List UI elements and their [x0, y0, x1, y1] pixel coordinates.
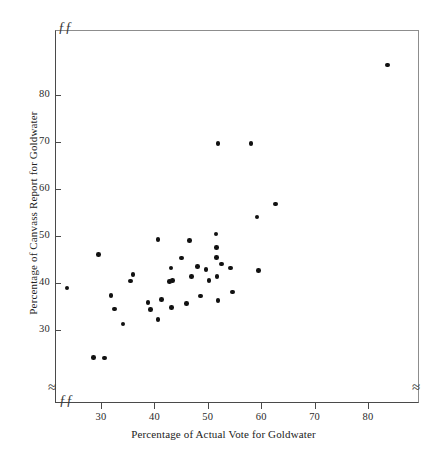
data-point [179, 256, 184, 261]
data-point [385, 63, 390, 68]
y-axis-tick [55, 189, 61, 190]
y-axis-tick [55, 283, 61, 284]
x-axis-tick-label: 30 [81, 411, 121, 422]
y-axis-tick-label: 80 [0, 88, 50, 99]
x-axis-tick [368, 403, 369, 409]
x-axis-tick [261, 403, 262, 409]
data-point [184, 301, 189, 306]
data-point [195, 264, 200, 269]
data-point [219, 262, 224, 267]
data-point [214, 232, 219, 237]
data-point [273, 202, 278, 207]
data-point [169, 266, 174, 271]
y-axis-tick [55, 330, 61, 331]
data-point [256, 268, 261, 273]
x-axis-tick-label: 40 [134, 411, 174, 422]
x-axis-tick [101, 403, 102, 409]
x-axis-tick-label: 60 [241, 411, 281, 422]
axis-break-bottom-left-icon: ƒƒ [59, 394, 73, 408]
data-point [170, 278, 175, 283]
x-axis-tick [208, 403, 209, 409]
data-point [216, 141, 221, 146]
data-point [128, 279, 133, 284]
data-point [249, 141, 254, 146]
y-axis-tick [55, 236, 61, 237]
data-point [255, 215, 260, 220]
data-point [102, 356, 107, 361]
data-point [109, 293, 114, 298]
data-point [65, 286, 70, 291]
data-point [159, 297, 164, 302]
y-axis-tick-label: 60 [0, 182, 50, 193]
data-point [215, 274, 220, 279]
data-point [91, 355, 96, 360]
y-axis-tick-label: 40 [0, 276, 50, 287]
x-axis-tick-label: 50 [188, 411, 228, 422]
axis-break-left-icon: ≈ [48, 380, 56, 395]
data-point [112, 307, 117, 312]
x-axis-tick-label: 70 [295, 411, 335, 422]
data-point [204, 267, 209, 272]
data-point [96, 252, 101, 257]
y-axis-tick-label: 30 [0, 323, 50, 334]
data-point [156, 237, 161, 242]
x-axis-title: Percentage of Actual Vote for Goldwater [0, 428, 447, 440]
y-axis-tick-label: 50 [0, 229, 50, 240]
data-point [230, 290, 235, 295]
data-point [214, 245, 219, 250]
axis-break-right-icon: ≈ [412, 380, 420, 395]
x-axis-tick-label: 80 [348, 411, 388, 422]
data-point [207, 278, 212, 283]
plot-area [55, 30, 419, 403]
y-axis-tick [55, 142, 61, 143]
y-axis-tick-label: 70 [0, 135, 50, 146]
data-point [228, 266, 233, 271]
data-point [121, 322, 126, 327]
axis-break-top-left-icon: ƒƒ [58, 21, 72, 35]
data-point [156, 317, 161, 322]
data-point [131, 272, 136, 277]
y-axis-tick [55, 95, 61, 96]
x-axis-tick [154, 403, 155, 409]
x-axis-tick [315, 403, 316, 409]
data-point [216, 298, 221, 303]
data-point [169, 305, 174, 310]
data-point [198, 294, 203, 299]
data-point [187, 238, 192, 243]
data-point [146, 300, 151, 305]
data-point [189, 274, 194, 279]
scatter-plot-figure: ƒƒ ƒƒ ≈ ≈ Percentage of Actual Vote for … [0, 0, 447, 455]
data-point [148, 307, 153, 312]
data-point [214, 255, 219, 260]
